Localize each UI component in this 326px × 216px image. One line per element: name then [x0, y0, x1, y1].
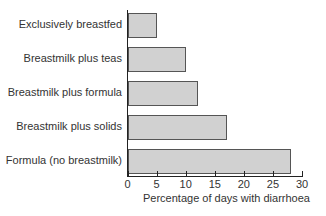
- bar: [128, 81, 198, 106]
- x-tick-label: 5: [154, 178, 160, 190]
- bar: [128, 115, 227, 140]
- x-tick-mark: [186, 171, 187, 176]
- x-tick-mark: [157, 171, 158, 176]
- x-tick-mark: [215, 171, 216, 176]
- bar: [128, 47, 186, 72]
- category-label: Breastmilk plus solids: [16, 120, 122, 132]
- x-tick-mark: [244, 171, 245, 176]
- category-label: Breastmilk plus teas: [24, 52, 122, 64]
- x-tick-label: 25: [267, 178, 279, 190]
- bar: [128, 13, 157, 38]
- bar-chart: Exclusively breastfedBreastmilk plus tea…: [0, 0, 326, 216]
- x-axis-title: Percentage of days with diarrhoea: [143, 192, 310, 204]
- category-label: Breastmilk plus formula: [8, 86, 122, 98]
- x-tick-mark: [273, 171, 274, 176]
- x-axis-line: [127, 176, 303, 177]
- x-tick-label: 15: [209, 178, 221, 190]
- x-tick-mark: [128, 171, 129, 176]
- bar: [128, 149, 291, 174]
- x-tick-label: 20: [238, 178, 250, 190]
- x-tick-label: 30: [296, 178, 308, 190]
- category-label: Exclusively breastfed: [19, 18, 122, 30]
- x-tick-mark: [302, 171, 303, 176]
- x-tick-label: 0: [124, 178, 130, 190]
- category-label: Formula (no breastmilk): [6, 154, 122, 166]
- x-tick-label: 10: [180, 178, 192, 190]
